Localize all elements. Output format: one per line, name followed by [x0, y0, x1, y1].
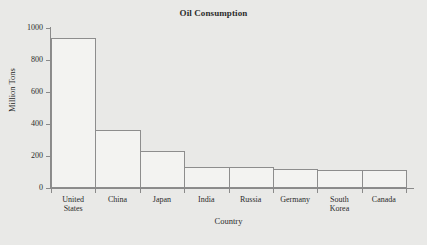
x-axis-tick: [140, 188, 141, 193]
x-axis-tick-label-line: South: [317, 195, 361, 204]
bar-canada: [362, 170, 407, 188]
x-axis-tick-label: China: [95, 195, 139, 204]
x-axis-tick-label: India: [184, 195, 228, 204]
y-axis-tick-label: 200: [3, 152, 43, 160]
bar-russia: [229, 167, 274, 188]
bar-india: [184, 167, 229, 188]
x-axis-tick-label-line: Korea: [317, 204, 361, 213]
x-axis-tick: [95, 188, 96, 193]
x-axis-tick: [406, 188, 407, 193]
x-axis-tick-label: Canada: [362, 195, 406, 204]
x-axis-tick-label-line: Russia: [229, 195, 273, 204]
bar-south-korea: [317, 170, 362, 188]
x-axis-tick-label-line: States: [51, 204, 95, 213]
bar-china: [95, 130, 140, 188]
chart-title: Oil Consumption: [0, 8, 427, 18]
x-axis-tick-label: UnitedStates: [51, 195, 95, 213]
x-axis-tick-label-line: China: [95, 195, 139, 204]
x-axis-title: Country: [51, 216, 406, 226]
x-axis-tick: [362, 188, 363, 193]
x-axis-tick-label: Russia: [229, 195, 273, 204]
y-axis-tick-label: 1000: [3, 24, 43, 32]
y-axis-title: Million Tons: [7, 45, 17, 135]
oil-consumption-bar-chart: Oil Consumption 02004006008001000 United…: [0, 0, 427, 245]
x-axis-tick-label: Germany: [273, 195, 317, 204]
x-axis-tick: [184, 188, 185, 193]
x-axis-tick-label-line: United: [51, 195, 95, 204]
bar-united-states: [51, 38, 96, 188]
x-axis-tick: [229, 188, 230, 193]
x-axis-tick: [317, 188, 318, 193]
x-axis-tick-label-line: India: [184, 195, 228, 204]
x-axis-tick-label-line: Germany: [273, 195, 317, 204]
x-axis-line: [50, 188, 414, 189]
bar-japan: [140, 151, 185, 188]
bar-germany: [273, 169, 318, 188]
x-axis-tick-label-line: Japan: [140, 195, 184, 204]
bars-layer: [51, 28, 406, 188]
x-axis-tick-label: Japan: [140, 195, 184, 204]
y-axis-tick-label: 0: [3, 184, 43, 192]
x-axis-tick-label: SouthKorea: [317, 195, 361, 213]
x-axis-tick-label-line: Canada: [362, 195, 406, 204]
x-axis-tick: [51, 188, 52, 193]
x-axis-tick: [273, 188, 274, 193]
